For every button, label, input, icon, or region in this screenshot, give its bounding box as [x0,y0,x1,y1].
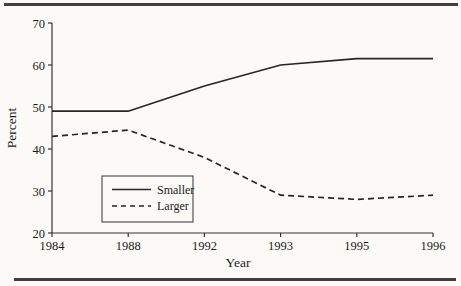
y-tick-label: 70 [33,17,46,31]
y-tick-label: 30 [33,185,46,199]
legend-label-smaller: Smaller [157,183,194,197]
legend-label-larger: Larger [157,199,189,213]
x-tick-label: 1993 [268,239,293,253]
y-axis-title: Percent [4,108,19,149]
x-tick-label: 1984 [40,239,66,253]
series-smaller-line [52,59,433,111]
x-tick-label: 1995 [344,239,369,253]
x-tick-label: 1992 [192,239,217,253]
chart-canvas: 203040506070198419881992199319951996Perc… [0,0,461,286]
y-tick-label: 50 [33,101,46,115]
x-tick-label: 1996 [421,239,446,253]
x-axis-title: Year [226,255,251,270]
figure-page: 203040506070198419881992199319951996Perc… [0,0,461,286]
bottom-rule [14,278,456,281]
line-chart: 203040506070198419881992199319951996Perc… [0,0,461,286]
y-tick-label: 60 [33,59,46,73]
x-tick-label: 1988 [116,239,141,253]
y-tick-label: 40 [33,143,46,157]
